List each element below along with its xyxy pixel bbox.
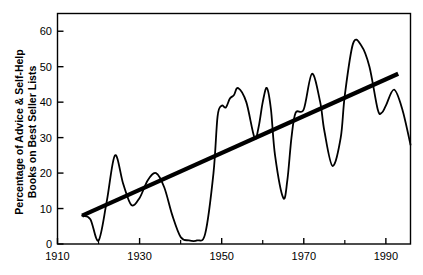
x-tick-label: 1990 xyxy=(374,250,398,262)
y-tick-label: 30 xyxy=(40,132,52,144)
y-axis-title-line2: Books on Best Seller Lists xyxy=(26,66,38,199)
y-tick-label: 0 xyxy=(46,238,52,250)
y-tick-label: 60 xyxy=(40,25,52,37)
y-axis-title: Percentage of Advice & Self-Help Books o… xyxy=(13,49,38,214)
chart-container: Percentage of Advice & Self-Help Books o… xyxy=(0,0,423,275)
y-tick-label: 10 xyxy=(40,203,52,215)
x-tick-label: 1950 xyxy=(209,250,233,262)
y-tick-label: 50 xyxy=(40,61,52,73)
y-tick-label: 20 xyxy=(40,167,52,179)
y-tick-label: 40 xyxy=(40,96,52,108)
y-axis-title-line1: Percentage of Advice & Self-Help xyxy=(13,49,25,214)
chart-figure: Percentage of Advice & Self-Help Books o… xyxy=(0,0,423,275)
x-tick-label: 1970 xyxy=(292,250,316,262)
x-tick-label: 1930 xyxy=(127,250,151,262)
x-tick-label: 1910 xyxy=(45,250,69,262)
